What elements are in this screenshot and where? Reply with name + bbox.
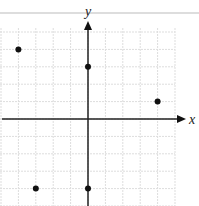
x-axis-arrow-icon — [177, 115, 186, 123]
axes — [2, 21, 186, 206]
x-axis-label: x — [188, 112, 196, 127]
scatter-plot: x y — [0, 0, 199, 206]
data-point — [85, 64, 91, 70]
data-point — [15, 46, 21, 52]
data-point — [33, 186, 39, 192]
y-axis-arrow-icon — [84, 21, 92, 30]
y-axis-label: y — [83, 4, 92, 19]
data-point — [85, 186, 91, 192]
coordinate-plane: x y — [0, 0, 199, 206]
data-point — [155, 99, 161, 105]
